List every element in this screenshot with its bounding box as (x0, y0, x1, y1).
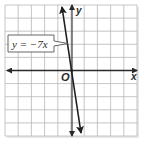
origin-label: O (61, 71, 70, 83)
x-axis-label: x (130, 71, 137, 82)
y-axis-label: y (75, 5, 82, 16)
equation-label: y = −7x (11, 38, 48, 50)
coordinate-graph: y x O y = −7x (0, 0, 141, 144)
